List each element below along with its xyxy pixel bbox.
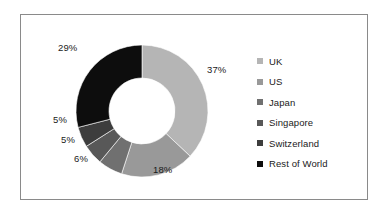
pie-slice[interactable] <box>76 45 142 127</box>
chart-legend: UKUSJapanSingaporeSwitzerlandRest of Wor… <box>257 51 365 174</box>
pie-slice[interactable] <box>142 45 208 156</box>
legend-item[interactable]: Singapore <box>257 113 365 134</box>
slice-value-label: 18% <box>153 164 172 175</box>
slice-value-label: 37% <box>207 64 226 75</box>
legend-item-label: Singapore <box>269 117 313 128</box>
slice-value-label: 5% <box>61 134 75 145</box>
legend-swatch-icon <box>257 79 263 85</box>
legend-item-label: Japan <box>269 97 295 108</box>
legend-item[interactable]: UK <box>257 51 365 72</box>
legend-item[interactable]: Switzerland <box>257 133 365 154</box>
legend-item-label: Switzerland <box>269 138 319 149</box>
legend-item[interactable]: US <box>257 72 365 93</box>
legend-swatch-icon <box>257 99 263 105</box>
slice-value-label: 6% <box>74 153 88 164</box>
slice-value-label: 5% <box>53 114 67 125</box>
legend-item-label: Rest of World <box>269 158 328 169</box>
legend-item[interactable]: Japan <box>257 92 365 113</box>
slice-value-label: 29% <box>58 42 77 53</box>
chart-frame: 37%18%6%5%5%29% UKUSJapanSingaporeSwitze… <box>20 14 368 200</box>
legend-item-label: UK <box>269 56 282 67</box>
legend-swatch-icon <box>257 161 263 167</box>
legend-swatch-icon <box>257 58 263 64</box>
legend-item-label: US <box>269 76 282 87</box>
legend-swatch-icon <box>257 120 263 126</box>
legend-swatch-icon <box>257 140 263 146</box>
legend-item[interactable]: Rest of World <box>257 154 365 175</box>
